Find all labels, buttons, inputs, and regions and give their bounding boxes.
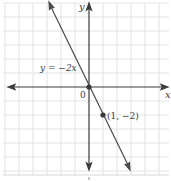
line-bottom-arrow-icon — [125, 163, 130, 171]
grid — [3, 3, 169, 175]
y-axis-up-arrow-icon — [87, 3, 92, 10]
point-1-neg2 — [100, 112, 105, 117]
origin-label: 0 — [80, 90, 86, 100]
x-axis-label: x — [165, 89, 171, 100]
point-label: (1, −2) — [107, 111, 139, 121]
origin-point — [86, 84, 91, 89]
coordinate-plane: y x 0 y = −2x (1, −2) — [0, 0, 171, 181]
y-axis-down-arrow-icon — [87, 163, 92, 170]
equation-label: y = −2x — [39, 63, 77, 73]
x-axis-left-arrow-icon — [8, 85, 15, 90]
y-axis-label: y — [78, 1, 85, 12]
